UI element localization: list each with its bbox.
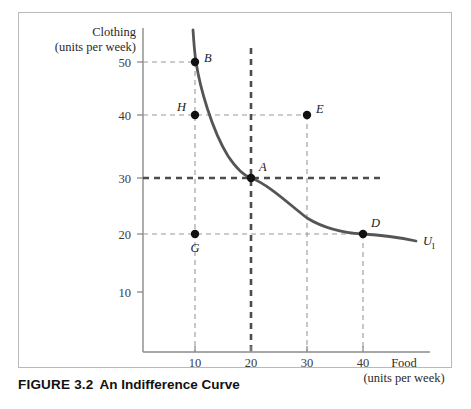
data-point-E: [303, 111, 311, 119]
data-point-D: [359, 230, 367, 238]
ytick-label-20: 20: [119, 228, 132, 242]
xtick-label-40: 40: [357, 356, 370, 370]
data-point-A: [247, 174, 255, 182]
data-point-label-B: B: [204, 51, 212, 65]
figure-number: FIGURE 3.2: [18, 377, 94, 392]
curve-label-u1-subscript: 1: [431, 241, 436, 251]
data-point-G: [191, 230, 199, 238]
xtick-label-10: 10: [189, 356, 202, 370]
data-point-label-A: A: [258, 160, 267, 174]
data-point-label-E: E: [315, 102, 324, 116]
data-point-B: [191, 58, 199, 66]
x-axis-title-line1: Food: [391, 356, 417, 370]
ytick-label-30: 30: [119, 172, 132, 186]
figure-title: An Indifference Curve: [100, 377, 240, 392]
ytick-label-50: 50: [119, 56, 132, 70]
data-point-label-D: D: [370, 216, 380, 230]
y-axis-title-line2: (units per week): [55, 40, 136, 54]
ytick-label-40: 40: [119, 109, 132, 123]
data-point-label-H: H: [176, 100, 187, 114]
y-axis-title-line1: Clothing: [92, 25, 137, 39]
figure-container: 50 40 30 20 10 10 20 30 40 Clothing (uni…: [0, 0, 471, 409]
xtick-label-30: 30: [301, 356, 314, 370]
ytick-label-10: 10: [119, 286, 132, 300]
indifference-curve-plot: 50 40 30 20 10 10 20 30 40 Clothing (uni…: [0, 0, 471, 370]
xtick-label-20: 20: [245, 356, 258, 370]
data-point-H: [191, 111, 199, 119]
indifference-curve-u1: [193, 30, 416, 241]
data-point-label-G: G: [190, 241, 199, 255]
figure-caption: FIGURE 3.2 An Indifference Curve: [18, 369, 452, 399]
